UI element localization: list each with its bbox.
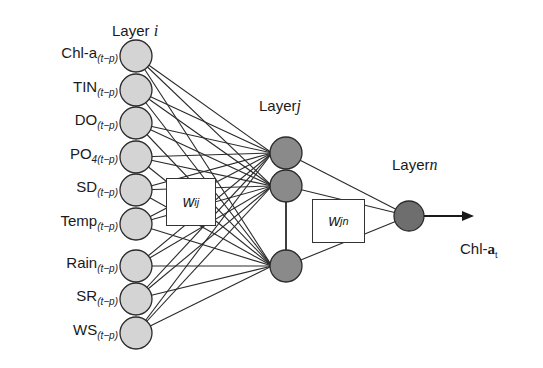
layer-j-title: Layerj — [259, 97, 301, 115]
hidden-node — [270, 137, 302, 169]
output-node — [394, 201, 424, 231]
input-node — [120, 208, 152, 240]
input-node — [120, 40, 152, 72]
input-layer-nodes — [120, 40, 152, 349]
input-node — [120, 317, 152, 349]
input-node — [120, 283, 152, 315]
input-label: DO(t−p) — [75, 112, 118, 131]
layer-n-title: Layern — [392, 156, 438, 174]
hidden-node — [270, 250, 302, 282]
input-node — [120, 107, 152, 139]
weight-wjn-sub: jn — [340, 215, 349, 227]
input-node — [120, 141, 152, 173]
weight-wjn-symbol: w — [328, 212, 340, 230]
hidden-node — [270, 170, 302, 202]
input-label: Chl-a(t−p) — [61, 45, 118, 64]
input-node — [120, 174, 152, 206]
input-node — [120, 250, 152, 282]
input-label: PO4(t−p) — [70, 146, 118, 165]
input-label: SD(t−p) — [76, 179, 118, 198]
input-label: Temp(t−p) — [60, 213, 118, 232]
weight-wij-sub: ij — [194, 196, 199, 208]
input-label: TIN(t−p) — [73, 79, 118, 98]
weight-box-wij: wij — [166, 178, 216, 226]
input-label: WS(t−p) — [73, 322, 118, 341]
layer-i-title: Layer i — [112, 22, 158, 40]
input-node — [120, 74, 152, 106]
weight-box-wjn: wjn — [312, 199, 365, 243]
output-arrow — [424, 211, 474, 221]
output-label: Chl-at — [460, 240, 498, 260]
input-label: Rain(t−p) — [66, 255, 118, 274]
weight-wij-symbol: w — [183, 193, 195, 211]
input-label: SR(t−p) — [76, 288, 118, 307]
